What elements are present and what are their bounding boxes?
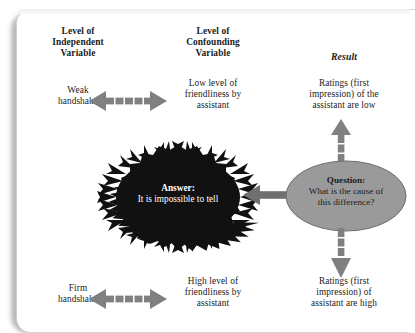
question-text: What is the cause ofthis difference? [309,186,384,207]
column-header-result: Result [296,51,392,63]
row-1-result: Ratings (firstimpression) of theassistan… [288,78,400,111]
column-header-independent-variable: Level ofIndependentVariable [26,26,130,59]
row-2-result: Ratings (firstimpression) ofassistant ar… [288,276,400,309]
answer-text: It is impossible to tell [138,194,219,204]
answer-label: Answer: It is impossible to tell [96,183,260,205]
row-1-confounding-variable: Low level offriendliness byassistant [156,78,270,111]
column-header-confounding-variable: Level ofConfoundingVariable [158,26,268,59]
double-headed-arrow-top [89,88,167,114]
double-headed-arrow-bottom [89,286,167,312]
row-2-confounding-variable: High level offriendliness byassistant [156,276,270,309]
up-arrow [331,119,351,165]
answer-lead: Answer: [161,183,195,193]
page-card-top-edge [17,9,410,14]
question-label: Question: What is the cause ofthis diffe… [285,175,407,209]
down-arrow [331,228,351,278]
left-arrow [243,185,287,205]
question-lead: Question: [327,175,365,185]
